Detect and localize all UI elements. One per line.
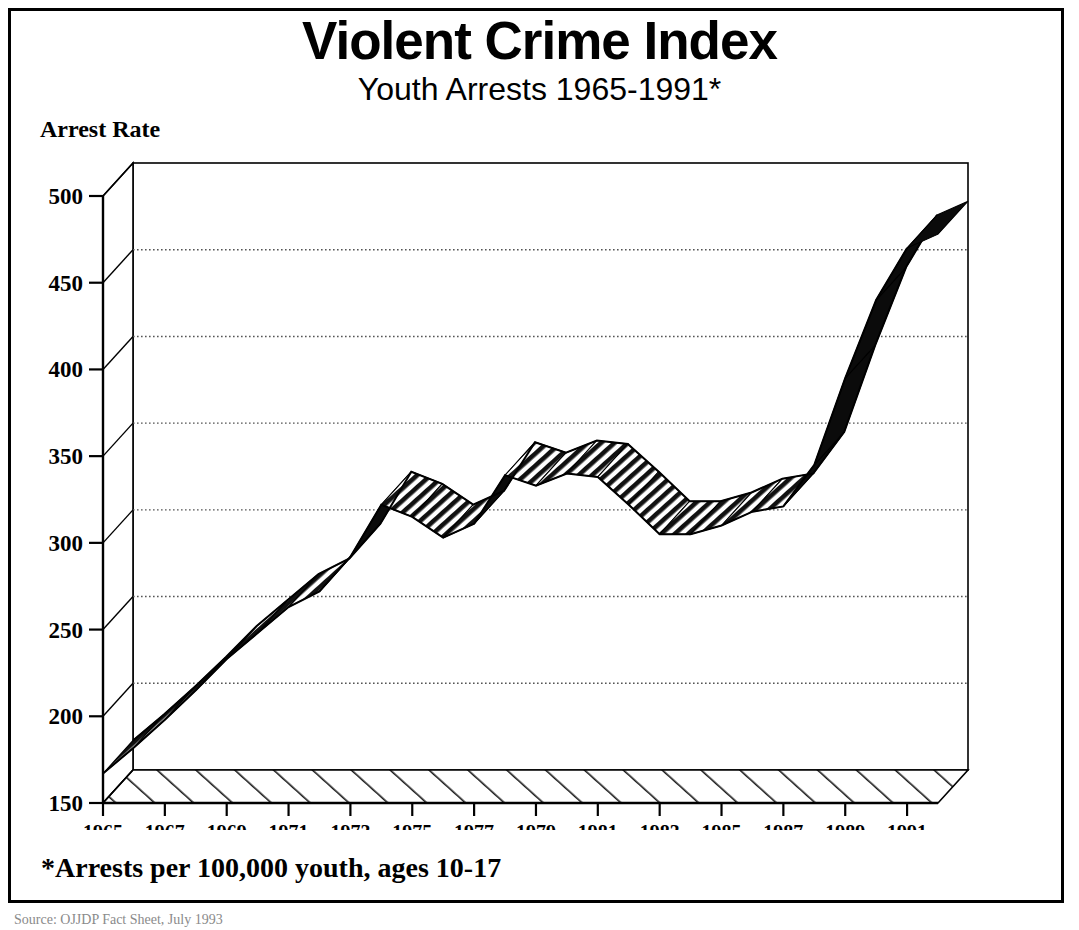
y-tick-label: 350 [49, 444, 84, 469]
footnote-text: *Arrests per 100,000 youth, ages 10-17 [41, 852, 501, 884]
x-tick-label: 1983 [640, 821, 680, 830]
y-tick-label: 400 [49, 357, 84, 382]
x-tick-label: 1969 [207, 821, 247, 830]
y-tick-label: 250 [49, 618, 84, 643]
x-tick-label: 1987 [763, 821, 803, 830]
y-tick-label: 450 [49, 271, 84, 296]
x-tick-label: 1965 [83, 821, 123, 830]
x-axis-ticks: 1965196719691971197319751977197919811983… [83, 803, 927, 830]
x-tick-label: 1975 [392, 821, 432, 830]
y-tick-label: 150 [49, 791, 84, 816]
x-tick-label: 1985 [702, 821, 742, 830]
figure-root: Violent Crime Index Youth Arrests 1965-1… [0, 0, 1079, 930]
y-tick-label: 300 [49, 531, 84, 556]
x-tick-label: 1977 [454, 821, 494, 830]
footnote-box: *Arrests per 100,000 youth, ages 10-17 [11, 846, 1061, 900]
x-tick-label: 1967 [145, 821, 185, 830]
x-tick-label: 1979 [516, 821, 556, 830]
x-tick-label: 1971 [269, 821, 309, 830]
x-tick-label: 1981 [578, 821, 618, 830]
x-tick-label: 1973 [330, 821, 370, 830]
x-tick-label: 1989 [825, 821, 865, 830]
source-text: Source: OJJDP Fact Sheet, July 1993 [14, 912, 223, 928]
y-tick-label: 500 [49, 184, 84, 209]
chart-canvas: 150200250300350400450500 196519671969197… [0, 0, 1079, 830]
x-tick-label: 1991 [887, 821, 927, 830]
y-tick-label: 200 [49, 704, 84, 729]
